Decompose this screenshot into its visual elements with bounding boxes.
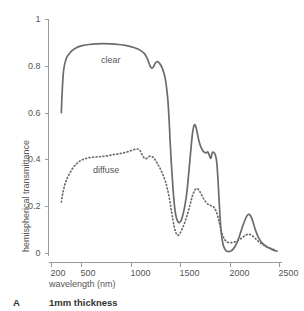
chart-canvas xyxy=(0,0,304,311)
x-tick-label: 200 xyxy=(51,269,66,278)
x-tick-label: 2500 xyxy=(279,269,299,278)
data-series-group xyxy=(61,44,277,252)
x-tick-label: 1500 xyxy=(180,269,200,278)
series-annotation-diffuse: diffuse xyxy=(93,166,119,175)
caption-panel-letter: A xyxy=(13,298,20,308)
x-tick-label: 2000 xyxy=(230,269,250,278)
x-tick-label: 500 xyxy=(81,269,96,278)
x-axis-title: wavelength (nm) xyxy=(49,280,116,289)
y-tick-label: 1 xyxy=(0,15,41,24)
figure-panel: 00.20.40.60.81 2005001000150020002500 cl… xyxy=(0,0,304,311)
y-axis-title: hemispherical transmittance xyxy=(22,140,31,252)
y-tick-label: 0.6 xyxy=(0,109,41,118)
x-tick-label: 1000 xyxy=(131,269,151,278)
x-tick-marks xyxy=(52,263,280,268)
caption-panel-text: 1mm thickness xyxy=(49,298,118,308)
series-line-clear xyxy=(61,44,277,252)
axes xyxy=(49,19,283,263)
series-annotation-clear: clear xyxy=(101,56,121,65)
y-tick-marks xyxy=(45,20,49,254)
y-tick-label: 0.8 xyxy=(0,62,41,71)
